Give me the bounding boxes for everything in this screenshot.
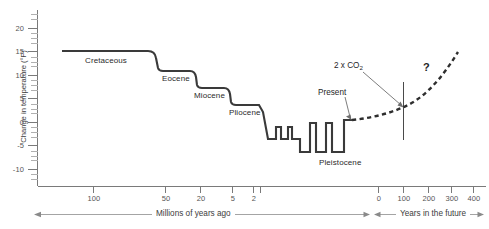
y-tick-label-20: 20 <box>0 24 24 33</box>
epoch-label-pleistocene: Pleistocene <box>319 158 361 167</box>
x-tick-label-50-mya: 50 <box>151 194 181 203</box>
co2-doubling-annotation: 2 x CO2 <box>334 61 363 70</box>
x-axis-ticks <box>94 187 474 194</box>
historical-temperature-curve <box>62 51 352 152</box>
y-tick-label-minus-10: -10 <box>0 165 24 174</box>
temperature-history-chart: Change in temperature (°F) 20 15 10 5 0 … <box>0 0 489 229</box>
x-tick-label-400-future: 400 <box>459 194 489 203</box>
projected-temperature-curve <box>352 52 458 120</box>
y-tick-label-0: 0 <box>0 118 24 127</box>
y-axis-major-ticks <box>28 29 38 170</box>
epoch-label-pliocene: Pliocene <box>229 108 261 117</box>
y-tick-label-minus-5: -5 <box>0 141 24 150</box>
y-tick-label-10: 10 <box>0 71 24 80</box>
epoch-label-miocene: Miocene <box>194 91 225 100</box>
co2-doubling-annotation-text: 2 x CO <box>334 61 359 70</box>
y-axis-minor-ticks <box>31 15 38 180</box>
x-tick-label-20-mya: 20 <box>186 194 216 203</box>
present-annotation: Present <box>318 88 346 97</box>
x-axis-label-years-in-the-future: Years in the future <box>396 209 470 218</box>
x-axis-label-millions-of-years-ago: Millions of years ago <box>152 209 235 218</box>
y-tick-label-5: 5 <box>0 94 24 103</box>
co2-doubling-annotation-subscript: 2 <box>359 64 362 71</box>
y-tick-label-15: 15 <box>0 47 24 56</box>
uncertainty-question-mark-annotation: ? <box>423 61 430 73</box>
present-leader-line <box>345 97 352 120</box>
co2-leader-line <box>363 72 404 108</box>
epoch-label-cretaceous: Cretaceous <box>85 56 127 65</box>
x-tick-label-2-mya: 2 <box>239 194 269 203</box>
epoch-label-eocene: Eocene <box>162 74 190 83</box>
x-tick-label-100-mya: 100 <box>79 194 109 203</box>
